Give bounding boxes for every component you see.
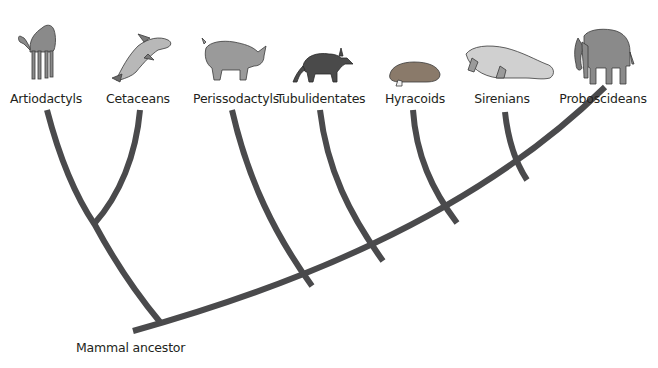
- taxon-label-proboscideans: Proboscideans: [559, 92, 646, 106]
- taxon-label-tubulidentates: Tubulidentates: [277, 92, 366, 106]
- hyrax-icon: [386, 56, 442, 88]
- cladogram-diagram: Artiodactyls Cetaceans Perissodactyls Tu…: [0, 0, 658, 368]
- aardvark-icon: [291, 44, 355, 88]
- taxon-label-artiodactyls: Artiodactyls: [10, 92, 82, 106]
- elephant-icon: [570, 26, 636, 88]
- branch-perissodactyls: [232, 110, 312, 286]
- dolphin-icon: [108, 28, 174, 84]
- branch-trunk-proboscideans: [133, 87, 605, 331]
- taxon-label-perissodactyls: Perissodactyls: [193, 92, 279, 106]
- taxon-label-cetaceans: Cetaceans: [106, 92, 170, 106]
- taxon-label-sirenians: Sirenians: [474, 92, 530, 106]
- manatee-icon: [462, 42, 558, 84]
- rhinoceros-icon: [200, 32, 272, 84]
- taxon-label-hyracoids: Hyracoids: [385, 92, 445, 106]
- camel-icon: [16, 18, 64, 84]
- branch-cetaceans: [94, 110, 140, 224]
- branch-tubulidentates: [320, 110, 383, 261]
- root-label-mammal-ancestor: Mammal ancestor: [76, 341, 185, 355]
